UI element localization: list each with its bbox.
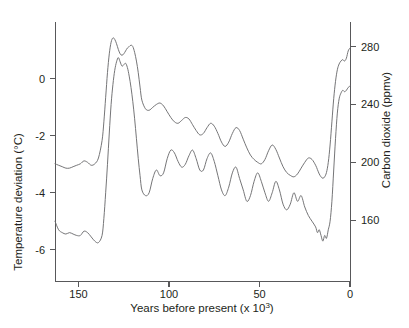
temperature-deviation-curve bbox=[55, 58, 350, 243]
right-y-axis: 280240200160 bbox=[351, 22, 380, 282]
chart-canvas: 150100500 0-2-4-6 280240200160 Temperatu… bbox=[0, 0, 409, 328]
left-y-axis: 0-2-4-6 bbox=[35, 22, 55, 282]
left-tick-label: -4 bbox=[35, 187, 45, 199]
x-tick-label: 150 bbox=[69, 288, 87, 300]
right-tick-group: 280240200160 bbox=[351, 41, 380, 227]
carbon-dioxide-curve bbox=[55, 38, 350, 178]
x-tick-label: 0 bbox=[347, 288, 353, 300]
left-tick-label: -6 bbox=[35, 244, 45, 256]
x-tick-label: 100 bbox=[160, 288, 178, 300]
x-axis-title: Years before present (x 103) bbox=[130, 301, 274, 314]
x-tick-group: 150100500 bbox=[69, 282, 353, 301]
right-tick-label: 160 bbox=[361, 214, 379, 226]
left-tick-group: 0-2-4-6 bbox=[35, 73, 55, 256]
right-axis-title: Carbon dioxide (ppmv) bbox=[380, 72, 392, 189]
vostok-ice-core-chart: 150100500 0-2-4-6 280240200160 Temperatu… bbox=[0, 0, 409, 328]
x-tick-label: 50 bbox=[253, 288, 265, 300]
left-axis-title: Temperature deviation (°C) bbox=[12, 133, 24, 271]
x-axis: 150100500 bbox=[55, 282, 353, 301]
right-tick-label: 280 bbox=[361, 41, 379, 53]
right-tick-label: 240 bbox=[361, 98, 379, 110]
left-tick-label: -2 bbox=[35, 130, 45, 142]
left-tick-label: 0 bbox=[39, 73, 45, 85]
right-tick-label: 200 bbox=[361, 156, 379, 168]
x-axis-title-base: Years before present (x 10 bbox=[130, 302, 265, 314]
x-axis-title-close: ) bbox=[270, 302, 274, 314]
